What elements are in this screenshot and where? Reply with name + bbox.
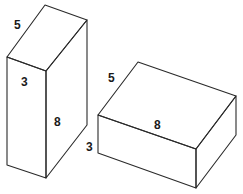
flat-box-height-label: 3: [86, 140, 93, 154]
flat-box-length-label: 8: [154, 118, 161, 132]
tall-box-height-label: 8: [54, 115, 61, 129]
flat-box-side-face: [196, 96, 236, 188]
tall-box-depth-label: 5: [14, 18, 21, 32]
tall-box-side-face: [46, 20, 87, 178]
flat-box-front-face: [98, 115, 196, 188]
boxes-diagram: 5 3 8 5 8 3: [0, 0, 243, 194]
tall-box: 5 3 8: [7, 5, 87, 178]
flat-box-top-face: [98, 62, 236, 149]
tall-box-width-label: 3: [21, 75, 28, 89]
flat-box-depth-label: 5: [108, 71, 115, 85]
flat-box: 5 8 3: [86, 62, 236, 188]
